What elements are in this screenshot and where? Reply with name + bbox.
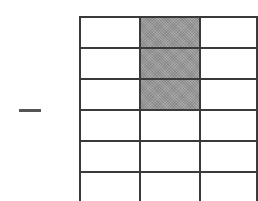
minus-sign-icon: [19, 109, 41, 112]
grid-cell: [81, 80, 141, 111]
fraction-grid: [79, 16, 258, 201]
grid-cell: [81, 173, 141, 201]
grid-cell: [81, 142, 141, 173]
grid-cell: [81, 49, 141, 80]
grid-cell-shaded: [141, 49, 201, 80]
grid-cell: [141, 173, 201, 201]
grid-cell-shaded: [141, 18, 201, 49]
grid-cell: [201, 49, 258, 80]
grid-cell: [201, 173, 258, 201]
grid-cell: [201, 80, 258, 111]
grid-cell: [141, 111, 201, 142]
grid-cell: [81, 111, 141, 142]
grid-cell: [201, 111, 258, 142]
grid-cell-shaded: [141, 80, 201, 111]
grid-cell: [141, 142, 201, 173]
grid-cell: [201, 18, 258, 49]
grid-cell: [81, 18, 141, 49]
grid-cell: [201, 142, 258, 173]
